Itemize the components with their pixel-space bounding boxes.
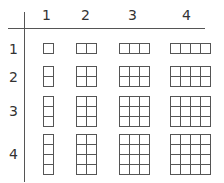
row-header-2: 2 [9, 70, 18, 84]
unit-square [87, 145, 97, 155]
unit-square [120, 77, 130, 87]
unit-square [181, 44, 191, 54]
unit-square [181, 145, 191, 155]
column-header-3: 3 [128, 8, 137, 22]
unit-square [191, 44, 201, 54]
unit-square [44, 97, 54, 107]
unit-square [191, 117, 201, 127]
unit-square [77, 67, 87, 77]
unit-square [171, 44, 181, 54]
unit-square [181, 107, 191, 117]
row-header-1: 1 [9, 42, 18, 56]
unit-grid-3x3 [119, 96, 150, 127]
unit-square [191, 77, 201, 87]
unit-square [120, 145, 130, 155]
unit-square [120, 97, 130, 107]
unit-square [130, 67, 140, 77]
unit-square [120, 165, 130, 175]
unit-square [191, 135, 201, 145]
unit-grid-1x4 [170, 43, 211, 54]
unit-square [181, 97, 191, 107]
unit-square [120, 44, 130, 54]
unit-square [201, 155, 211, 165]
column-header-2: 2 [81, 8, 90, 22]
unit-square [140, 117, 150, 127]
unit-grid-2x1 [43, 66, 54, 87]
unit-square [77, 145, 87, 155]
unit-grid-2x4 [170, 66, 211, 87]
unit-square [191, 165, 201, 175]
unit-square [201, 145, 211, 155]
unit-square [130, 165, 140, 175]
unit-square [201, 107, 211, 117]
unit-square [181, 155, 191, 165]
unit-square [191, 107, 201, 117]
unit-square [201, 77, 211, 87]
unit-square [87, 155, 97, 165]
unit-square [77, 165, 87, 175]
unit-square [77, 135, 87, 145]
unit-grid-4x2 [76, 134, 97, 175]
unit-square [130, 44, 140, 54]
unit-square [191, 155, 201, 165]
unit-square [44, 155, 54, 165]
unit-square [87, 135, 97, 145]
unit-square [201, 135, 211, 145]
unit-square [140, 107, 150, 117]
unit-square [140, 44, 150, 54]
unit-square [44, 165, 54, 175]
unit-square [181, 165, 191, 175]
unit-square [130, 135, 140, 145]
unit-square [171, 165, 181, 175]
unit-square [140, 165, 150, 175]
unit-square [87, 77, 97, 87]
unit-square [120, 67, 130, 77]
unit-square [44, 44, 54, 54]
unit-square [140, 97, 150, 107]
unit-grid-1x1 [43, 43, 54, 54]
unit-grid-4x4 [170, 134, 211, 175]
unit-square [87, 117, 97, 127]
unit-square [171, 67, 181, 77]
unit-grid-1x3 [119, 43, 150, 54]
unit-square [87, 107, 97, 117]
unit-grid-3x2 [76, 96, 97, 127]
unit-square [171, 77, 181, 87]
unit-square [191, 145, 201, 155]
unit-square [77, 155, 87, 165]
row-header-3: 3 [9, 104, 18, 118]
unit-square [120, 107, 130, 117]
horizontal-axis-line [8, 28, 205, 29]
unit-square [87, 44, 97, 54]
column-header-1: 1 [42, 8, 51, 22]
unit-square [77, 107, 87, 117]
unit-square [201, 97, 211, 107]
unit-square [171, 155, 181, 165]
unit-square [140, 135, 150, 145]
unit-square [171, 117, 181, 127]
unit-square [77, 117, 87, 127]
unit-square [44, 135, 54, 145]
unit-square [120, 117, 130, 127]
unit-square [201, 67, 211, 77]
unit-square [171, 107, 181, 117]
unit-square [171, 97, 181, 107]
unit-square [140, 155, 150, 165]
unit-square [201, 117, 211, 127]
unit-square [181, 135, 191, 145]
unit-square [87, 165, 97, 175]
unit-grid-2x3 [119, 66, 150, 87]
unit-square [130, 145, 140, 155]
unit-square [130, 155, 140, 165]
unit-square [77, 77, 87, 87]
unit-square [201, 44, 211, 54]
unit-grid-2x2 [76, 66, 97, 87]
row-header-4: 4 [9, 147, 18, 161]
unit-square [130, 107, 140, 117]
unit-square [201, 165, 211, 175]
unit-square [171, 135, 181, 145]
unit-square [130, 77, 140, 87]
unit-square [44, 117, 54, 127]
unit-square [181, 67, 191, 77]
unit-grid-3x1 [43, 96, 54, 127]
